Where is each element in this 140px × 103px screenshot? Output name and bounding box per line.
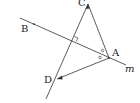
line-cd [46, 4, 88, 99]
label-d: D [44, 74, 52, 85]
right-angle-marker [75, 37, 78, 42]
point-a-dot [108, 57, 110, 59]
geometry-diagram: C B A D m [0, 0, 140, 103]
label-a: A [111, 47, 120, 58]
angle-mark-1 [101, 49, 104, 52]
line-m [20, 18, 126, 65]
label-m: m [125, 63, 134, 74]
label-c: C [78, 0, 86, 8]
angle-mark-2 [99, 56, 102, 59]
label-b: B [21, 23, 28, 34]
point-b-dot [33, 23, 35, 25]
segment-ad [57, 58, 109, 79]
arrow-d-icon [57, 76, 63, 80]
